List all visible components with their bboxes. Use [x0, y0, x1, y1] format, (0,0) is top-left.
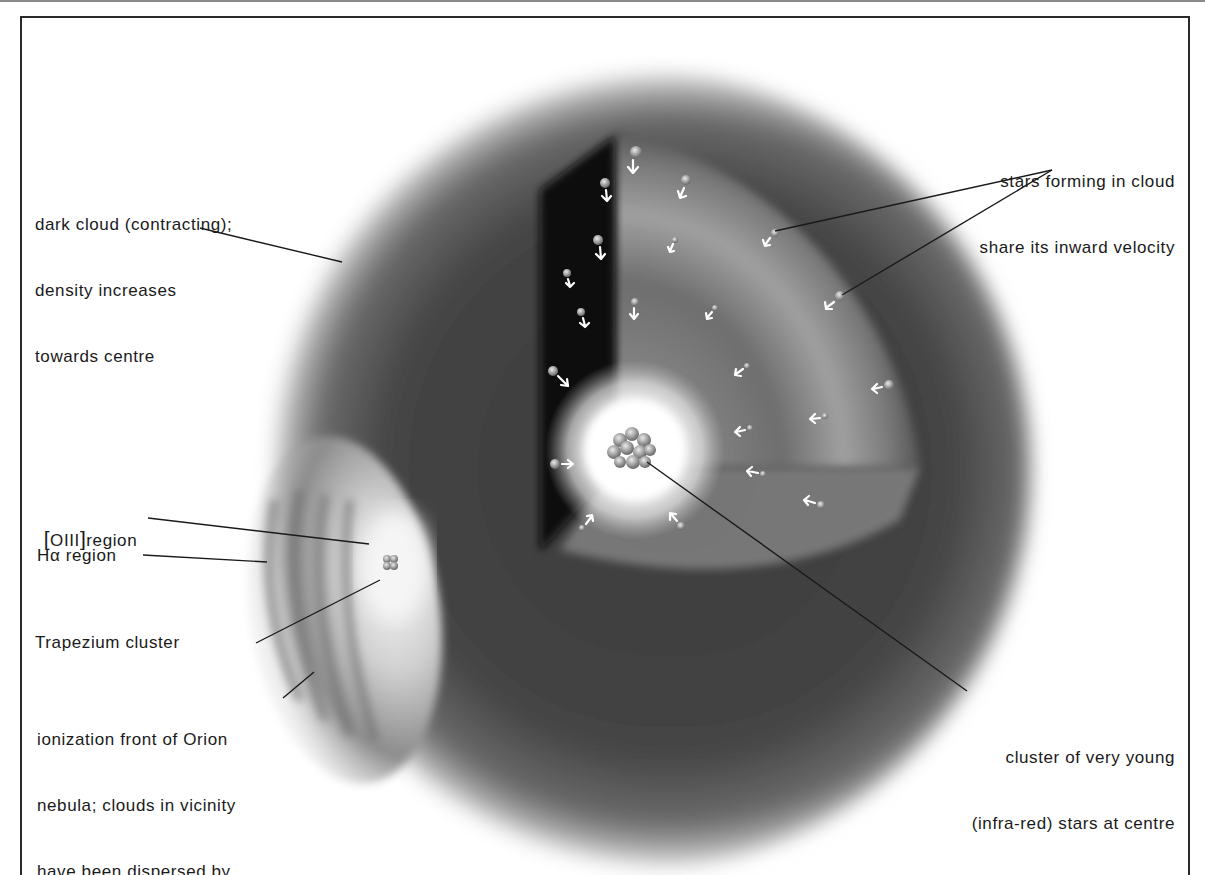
- label-line: nebula; clouds in vicinity: [37, 795, 236, 817]
- label-line: cluster of very young: [924, 747, 1175, 769]
- label-line: (infra-red) stars at centre: [924, 813, 1175, 835]
- label-line: dark cloud (contracting);: [35, 214, 232, 236]
- label-young-cluster: cluster of very young (infra-red) stars …: [924, 703, 1175, 875]
- label-line: stars forming in cloud: [980, 171, 1175, 193]
- label-trapezium-cluster: Trapezium cluster: [35, 632, 180, 654]
- label-line: towards centre: [35, 346, 232, 368]
- label-ionization-front: ionization front of Orion nebula; clouds…: [37, 685, 236, 875]
- label-dark-cloud: dark cloud (contracting); density increa…: [35, 170, 232, 390]
- label-line: density increases: [35, 280, 232, 302]
- label-line: share its inward velocity: [980, 237, 1175, 259]
- label-stars-forming: stars forming in cloud share its inward …: [980, 127, 1175, 281]
- label-line: have been dispersed by: [37, 861, 236, 875]
- label-line: ionization front of Orion: [37, 729, 236, 751]
- label-halpha-region: Hα region: [37, 545, 117, 567]
